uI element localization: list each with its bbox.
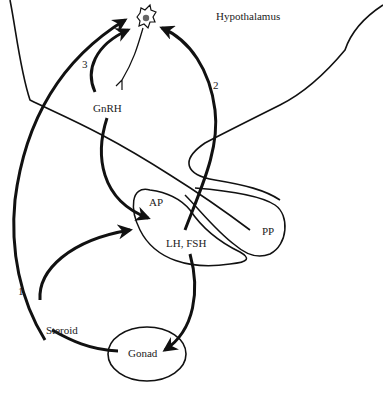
lhfsh-to-gonad-arrow	[165, 254, 195, 350]
hypothalamus-outline-right	[189, 5, 383, 200]
gonad-label: Gonad	[128, 348, 157, 359]
ap-label: AP	[149, 197, 163, 208]
gnrh-label: GnRH	[93, 103, 122, 114]
hpg-axis-diagram	[0, 0, 383, 401]
steroid-to-ap-arrow-head	[40, 230, 130, 300]
steroid-label: Steroid	[46, 325, 78, 336]
loop-3-label: 3	[82, 59, 88, 70]
pp-label: PP	[262, 226, 274, 237]
gnrh-to-ap-arrow	[101, 118, 148, 218]
loop-1-label: 1	[18, 286, 24, 297]
loop-2-label: 2	[213, 80, 219, 91]
hypothalamus-label: Hypothalamus	[216, 11, 280, 22]
gnrh-neuron-icon	[116, 5, 156, 90]
lh-fsh-label: LH, FSH	[166, 238, 206, 249]
